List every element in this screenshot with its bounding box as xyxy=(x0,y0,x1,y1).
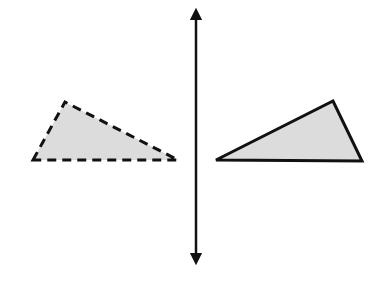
reflection-diagram xyxy=(0,0,388,282)
dashed-triangle-reflection xyxy=(33,102,178,160)
solid-triangle-original xyxy=(216,101,362,161)
